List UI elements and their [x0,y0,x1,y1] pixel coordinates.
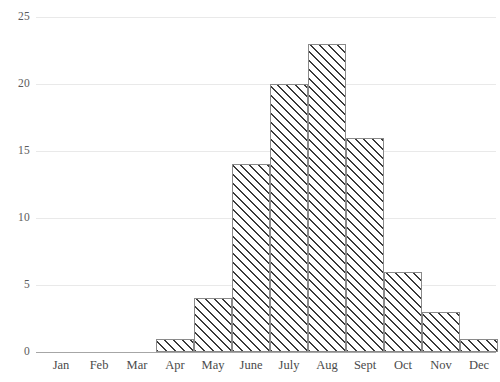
bar-slot-jan [42,10,80,352]
plot-area [36,10,496,352]
bar-slot-feb [80,10,118,352]
y-tick-label-15: 15 [0,145,30,157]
bar-aug[interactable] [308,44,346,352]
bar-chart: 25 20 15 10 5 0 [0,0,500,382]
y-tick-label-0: 0 [0,346,30,358]
x-axis-labels: Jan Feb Mar Apr May June July Aug Sept O… [36,355,496,377]
y-tick-label-20: 20 [0,78,30,90]
bar-slot-mar [118,10,156,352]
y-tick-label-5: 5 [0,279,30,291]
y-tick-label-25: 25 [0,11,30,23]
bar-slot-june [232,10,270,352]
x-tick-label-dec: Dec [453,355,500,375]
bar-slot-may [194,10,232,352]
bar-may[interactable] [194,298,232,352]
bar-slot-sept [346,10,384,352]
bar-nov[interactable] [422,312,460,352]
bar-slot-nov [422,10,460,352]
y-tick-label-10: 10 [0,212,30,224]
y-axis-labels: 25 20 15 10 5 0 [0,10,30,352]
bar-apr[interactable] [156,339,194,352]
bar-slot-oct [384,10,422,352]
bar-july[interactable] [270,84,308,352]
bar-series [36,10,496,352]
bar-dec[interactable] [460,339,498,352]
bar-slot-july [270,10,308,352]
bar-oct[interactable] [384,272,422,352]
bar-sept[interactable] [346,138,384,352]
x-axis-baseline [36,352,496,353]
bar-slot-apr [156,10,194,352]
bar-june[interactable] [232,164,270,352]
bar-slot-aug [308,10,346,352]
bar-slot-dec [460,10,498,352]
